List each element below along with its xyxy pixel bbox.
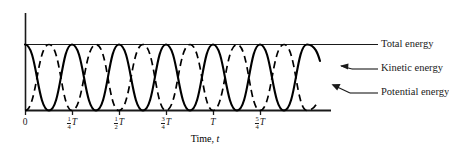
- period-symbol: T: [72, 117, 77, 127]
- fraction-denominator: 2: [114, 124, 118, 131]
- fraction-denominator: 4: [67, 124, 71, 131]
- x-axis-title-symbol: t: [216, 133, 219, 144]
- period-symbol: T: [210, 117, 215, 127]
- period-symbol: T: [260, 117, 265, 127]
- fraction-one-half: 1 2: [114, 116, 118, 130]
- legend-label-potential-energy: Potential energy: [381, 86, 449, 97]
- x-tick-label-T: T: [210, 117, 215, 127]
- potential-energy-leader: [332, 84, 379, 93]
- fraction-one-quarter: 1 4: [67, 116, 71, 130]
- period-symbol: T: [166, 117, 171, 127]
- kinetic-energy-curve: [25, 45, 320, 111]
- fraction-denominator: 4: [161, 124, 165, 131]
- fraction-three-quarters: 3 4: [161, 116, 165, 130]
- fraction-denominator: 4: [255, 124, 259, 131]
- x-tick-text-0: 0: [23, 117, 28, 127]
- x-tick-label-half-T: 1 2 T: [114, 116, 124, 130]
- x-tick-label-three-quarter-T: 3 4 T: [161, 116, 171, 130]
- potential-energy-curve: [25, 45, 317, 111]
- legend-label-kinetic-energy: Kinetic energy: [381, 62, 443, 73]
- x-tick-label-quarter-T: 1 4 T: [67, 116, 77, 130]
- x-axis-title: Time, t: [191, 133, 220, 144]
- period-symbol: T: [119, 117, 124, 127]
- kinetic-energy-leader: [340, 64, 378, 70]
- x-axis-title-text: Time,: [191, 133, 217, 144]
- legend-label-total-energy: Total energy: [381, 38, 433, 49]
- x-tick-label-five-quarter-T: 5 4 T: [255, 116, 265, 130]
- fraction-five-quarters: 5 4: [255, 116, 259, 130]
- x-tick-label-0: 0: [23, 117, 28, 127]
